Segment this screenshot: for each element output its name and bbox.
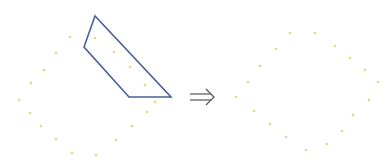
point-dot (289, 32, 292, 35)
left-point-cloud (18, 36, 157, 157)
diagram-canvas (0, 0, 392, 168)
point-dot (368, 99, 371, 102)
point-dot (269, 123, 272, 126)
point-dot (154, 101, 157, 104)
implies-arrow-icon (190, 89, 214, 105)
point-dot (71, 152, 74, 155)
point-dot (40, 125, 43, 128)
point-dot (129, 66, 132, 69)
point-dot (275, 48, 278, 51)
point-dot (29, 112, 32, 115)
point-dot (253, 110, 256, 113)
point-dot (146, 111, 149, 114)
point-dot (43, 69, 46, 72)
point-dot (314, 32, 317, 35)
point-dot (377, 81, 380, 84)
point-dot (95, 154, 98, 157)
point-dot (259, 65, 262, 68)
right-point-cloud (235, 32, 380, 152)
point-dot (285, 136, 288, 139)
point-dot (144, 84, 147, 87)
point-dot (55, 52, 58, 55)
point-dot (305, 149, 308, 152)
point-dot (352, 114, 355, 117)
point-dot (69, 36, 72, 39)
point-dot (334, 45, 337, 48)
point-dot (235, 96, 238, 99)
point-dot (115, 139, 118, 142)
point-dot (341, 130, 344, 133)
point-dot (349, 57, 352, 60)
point-dot (364, 69, 367, 72)
point-dot (55, 138, 58, 141)
point-dot (18, 99, 21, 102)
point-dot (94, 37, 97, 40)
point-dot (326, 143, 329, 146)
point-dot (30, 82, 33, 85)
point-dot (247, 81, 250, 84)
selection-polygon (84, 16, 171, 97)
point-dot (131, 125, 134, 128)
point-dot (113, 51, 116, 54)
